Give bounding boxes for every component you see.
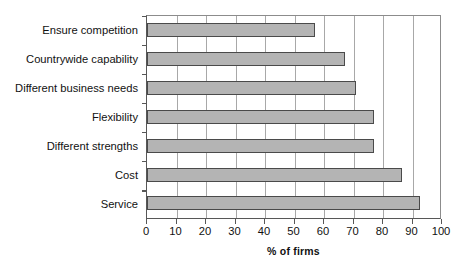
bar: [147, 110, 374, 124]
bar-row: [147, 110, 440, 124]
x-tick-mark: [235, 219, 236, 224]
x-axis-title: % of firms: [146, 245, 441, 257]
x-axis-tick-label: 30: [228, 225, 240, 237]
bar-row: [147, 168, 440, 182]
bar: [147, 139, 374, 153]
x-tick-mark: [176, 219, 177, 224]
x-axis-tick-label: 20: [199, 225, 211, 237]
y-axis-labels: Ensure competition Countrywide capabilit…: [0, 15, 142, 219]
x-axis-tick-label: 100: [432, 225, 451, 237]
y-axis-tick-label: Countrywide capability: [0, 52, 142, 66]
bar: [147, 196, 420, 210]
x-tick-mark: [441, 219, 442, 224]
bar: [147, 81, 356, 95]
x-tick-mark: [294, 219, 295, 224]
x-axis-tick-label: 50: [287, 225, 299, 237]
bar: [147, 23, 315, 37]
x-tick-mark: [205, 219, 206, 224]
y-axis-tick-label: Different strengths: [0, 139, 142, 153]
bar: [147, 168, 402, 182]
x-axis-tick-label: 0: [143, 225, 149, 237]
x-tick-mark: [264, 219, 265, 224]
plot-area: [146, 15, 441, 219]
x-axis-tick-label: 70: [346, 225, 358, 237]
bar-chart: Ensure competition Countrywide capabilit…: [0, 0, 473, 271]
y-axis-tick-label: Service: [0, 197, 142, 211]
bar-row: [147, 196, 440, 210]
x-tick-mark: [146, 219, 147, 224]
x-axis-tick-label: 80: [376, 225, 388, 237]
x-axis-labels: 0102030405060708090100: [146, 225, 441, 241]
bar: [147, 52, 345, 66]
x-axis-tick-label: 60: [317, 225, 329, 237]
x-axis-tick-label: 90: [405, 225, 417, 237]
y-axis-tick-label: Flexibility: [0, 110, 142, 124]
x-axis-tick-label: 40: [258, 225, 270, 237]
x-tick-mark: [382, 219, 383, 224]
bar-row: [147, 52, 440, 66]
x-tick-mark: [412, 219, 413, 224]
y-axis-tick-label: Cost: [0, 168, 142, 182]
bar-series: [147, 16, 440, 218]
bar-row: [147, 23, 440, 37]
bar-row: [147, 81, 440, 95]
y-axis-tick-label: Ensure competition: [0, 23, 142, 37]
y-axis-tick-label: Different business needs: [0, 81, 142, 95]
x-tick-mark: [323, 219, 324, 224]
x-tick-mark: [353, 219, 354, 224]
x-axis-tick-label: 10: [169, 225, 181, 237]
bar-row: [147, 139, 440, 153]
